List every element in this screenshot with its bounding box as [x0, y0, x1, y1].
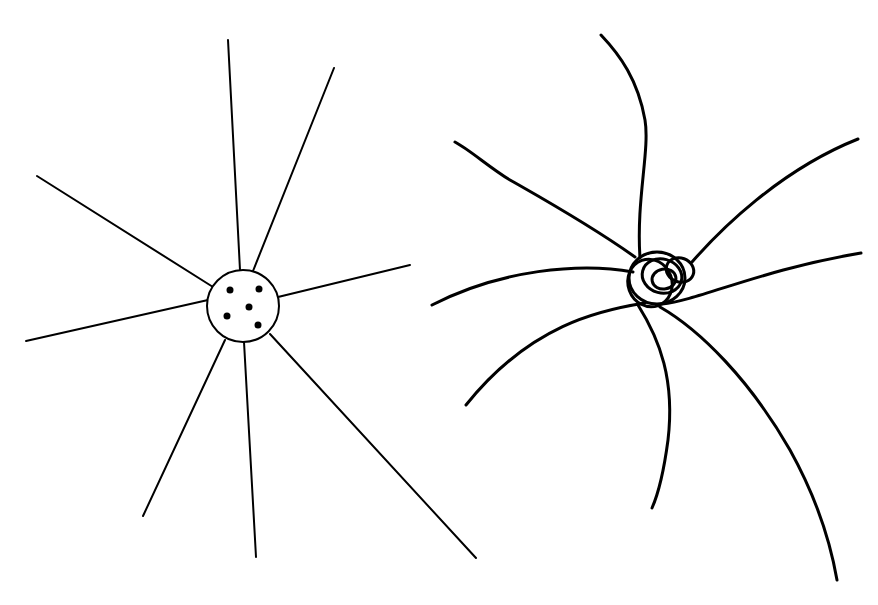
- straight-ray: [270, 334, 476, 558]
- inner-dot: [224, 313, 231, 320]
- straight-ray: [244, 342, 256, 557]
- inner-dot: [227, 287, 234, 294]
- curved-strand: [660, 307, 837, 580]
- straight-ray: [228, 40, 240, 270]
- straight-ray: [26, 300, 208, 341]
- curved-strand: [601, 35, 646, 258]
- curved-strand: [466, 303, 645, 405]
- figure-canvas: [0, 0, 878, 605]
- inner-dot: [246, 304, 253, 311]
- straight-ray: [253, 68, 334, 271]
- inner-dot: [256, 286, 263, 293]
- curved-strand: [692, 139, 858, 262]
- curved-strand: [432, 268, 633, 305]
- straight-ray: [143, 340, 225, 516]
- curved-strand: [455, 142, 635, 257]
- illustration: [0, 0, 878, 605]
- straight-ray: [37, 176, 213, 287]
- center-circle: [207, 270, 279, 342]
- tangled-knot-with-curved-strands: [432, 35, 861, 580]
- straight-ray: [278, 265, 410, 297]
- curved-strand: [638, 305, 670, 508]
- inner-dot: [255, 322, 262, 329]
- cell-with-straight-rays: [26, 40, 476, 558]
